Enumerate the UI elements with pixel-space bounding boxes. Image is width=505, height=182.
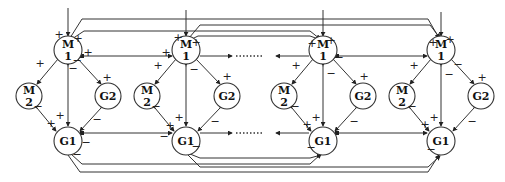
top-coupling-wires bbox=[68, 8, 441, 40]
svg-text:+: + bbox=[46, 117, 55, 130]
svg-text:+: + bbox=[55, 109, 64, 122]
svg-text:−: − bbox=[68, 62, 77, 75]
svg-text:−: − bbox=[92, 113, 101, 126]
svg-text:G2: G2 bbox=[472, 90, 489, 103]
bottom-coupling-wires bbox=[68, 154, 440, 172]
svg-text:−: − bbox=[334, 51, 343, 64]
svg-text:G1: G1 bbox=[314, 135, 331, 148]
svg-text:−: − bbox=[191, 140, 200, 153]
svg-text:+: + bbox=[359, 70, 368, 83]
svg-text:−: − bbox=[81, 136, 90, 149]
svg-text:+: + bbox=[73, 32, 82, 45]
svg-text:−: − bbox=[467, 115, 476, 128]
svg-text:−: − bbox=[33, 100, 42, 113]
svg-text:G2: G2 bbox=[354, 90, 371, 103]
svg-text:+: + bbox=[191, 36, 200, 49]
svg-text:+: + bbox=[445, 33, 454, 46]
svg-text:+: + bbox=[326, 34, 335, 47]
svg-text:+: + bbox=[161, 46, 170, 59]
svg-text:+: + bbox=[222, 70, 231, 83]
svg-text:+: + bbox=[174, 111, 183, 124]
module-1: M 1 M 2 G2 G1 ++ +− +− +− ++ −− − bbox=[16, 28, 121, 161]
svg-text:G1: G1 bbox=[59, 135, 76, 148]
svg-text:1: 1 bbox=[437, 50, 445, 63]
svg-text:−: − bbox=[444, 68, 453, 81]
svg-text:+: + bbox=[311, 111, 320, 124]
svg-text:−: − bbox=[151, 100, 160, 113]
svg-text:+: + bbox=[477, 71, 486, 84]
svg-text:+: + bbox=[429, 111, 438, 124]
svg-text:+: + bbox=[302, 118, 311, 131]
svg-text:+: + bbox=[291, 59, 300, 72]
svg-text:+: + bbox=[420, 118, 429, 131]
svg-text:2: 2 bbox=[280, 96, 288, 109]
svg-text:1: 1 bbox=[182, 50, 190, 63]
svg-text:−: − bbox=[326, 67, 335, 80]
svg-text:−: − bbox=[426, 143, 435, 156]
svg-text:−: − bbox=[159, 130, 168, 143]
network-diagram: M 1 M 2 G2 G1 ++ +− +− +− ++ −− − M 1 M … bbox=[0, 0, 505, 182]
svg-text:+: + bbox=[153, 59, 162, 72]
svg-text:−: − bbox=[210, 115, 219, 128]
module-3: M 1 M 2 G2 G1 ++ +− −+ −+ +− − bbox=[271, 34, 376, 155]
svg-text:1: 1 bbox=[319, 50, 327, 63]
svg-text:+: + bbox=[83, 46, 92, 59]
svg-text:+: + bbox=[409, 59, 418, 72]
module-2: M 1 M 2 G2 G1 ++ ++ −+ −+ +− −− bbox=[134, 31, 240, 155]
svg-text:+: + bbox=[173, 31, 182, 44]
svg-text:−: − bbox=[189, 63, 198, 76]
svg-text:−: − bbox=[349, 115, 358, 128]
svg-text:+: + bbox=[307, 37, 316, 50]
svg-text:−: − bbox=[306, 141, 315, 154]
svg-text:−: − bbox=[453, 58, 462, 71]
svg-text:−: − bbox=[72, 148, 81, 161]
svg-text:−: − bbox=[290, 100, 299, 113]
svg-text:+: + bbox=[102, 71, 111, 84]
svg-text:2: 2 bbox=[25, 96, 33, 109]
svg-text:2: 2 bbox=[143, 96, 151, 109]
svg-text:G2: G2 bbox=[218, 90, 235, 103]
module-4: M 1 M 2 G2 G1 ++ +− −+ −+ +− − bbox=[389, 33, 494, 156]
svg-text:+: + bbox=[35, 57, 44, 70]
svg-text:2: 2 bbox=[398, 96, 406, 109]
svg-text:+: + bbox=[428, 36, 437, 49]
svg-text:G2: G2 bbox=[99, 90, 116, 103]
svg-text:−: − bbox=[407, 100, 416, 113]
svg-text:+: + bbox=[54, 28, 63, 41]
